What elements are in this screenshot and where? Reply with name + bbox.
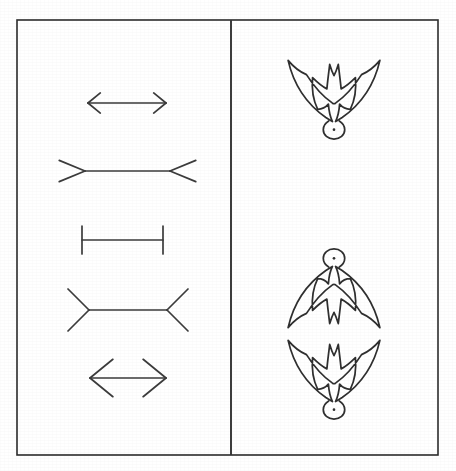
line-figure-fins-outward: [59, 160, 196, 181]
figure-canvas: [0, 0, 456, 471]
line-figure-double-arrow-large: [90, 359, 166, 396]
line-figure-end-bars: [82, 226, 163, 254]
bird-figure-top: [288, 60, 380, 139]
line-figure-panel: [59, 93, 196, 397]
outer-frame: [17, 20, 438, 455]
figure-root: Line figures and bird silhouette figures: [0, 0, 456, 471]
bird-figure-bottom: [288, 340, 380, 419]
bird-figure-middle-inverted: [288, 249, 380, 328]
line-figure-fins-inward: [68, 289, 188, 331]
line-figure-double-arrow-small: [88, 93, 166, 113]
bird-figure-panel: [288, 60, 380, 419]
